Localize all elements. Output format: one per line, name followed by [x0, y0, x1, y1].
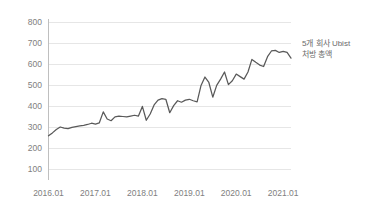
y-axis-tick-label: 200 [28, 143, 42, 153]
chart-plot-area: 800700600500400300200100 2016.012017.012… [0, 0, 374, 223]
y-axis-tick-label: 800 [28, 17, 42, 27]
y-axis-tick-label: 400 [28, 101, 42, 111]
x-axis-tick-label: 2019.01 [174, 188, 205, 198]
y-axis-tick-label: 100 [28, 164, 42, 174]
x-axis-tick-label: 2020.01 [221, 188, 252, 198]
line-chart-figure: 800700600500400300200100 2016.012017.012… [0, 0, 374, 223]
y-axis-tick-label: 300 [28, 122, 42, 132]
x-axis-tick-label: 2016.01 [33, 188, 64, 198]
chart-legend: 5개 회사 Ubist 처방 총액 [302, 38, 372, 60]
legend-label-line2: 처방 총액 [302, 49, 372, 60]
data-series-line [49, 50, 292, 135]
x-axis-tick-label: 2021.01 [268, 188, 299, 198]
x-axis-tick-labels: 2016.012017.012018.012019.012020.012021.… [33, 188, 299, 198]
x-axis-tick-label: 2017.01 [80, 188, 111, 198]
y-axis-tick-label: 700 [28, 38, 42, 48]
gridlines-group [49, 23, 292, 170]
x-axis-tick-label: 2018.01 [127, 188, 158, 198]
legend-label-line1: 5개 회사 Ubist [302, 38, 372, 49]
y-axis-tick-label: 600 [28, 59, 42, 69]
y-axis-tick-label: 500 [28, 80, 42, 90]
y-axis-tick-labels: 800700600500400300200100 [28, 17, 42, 174]
